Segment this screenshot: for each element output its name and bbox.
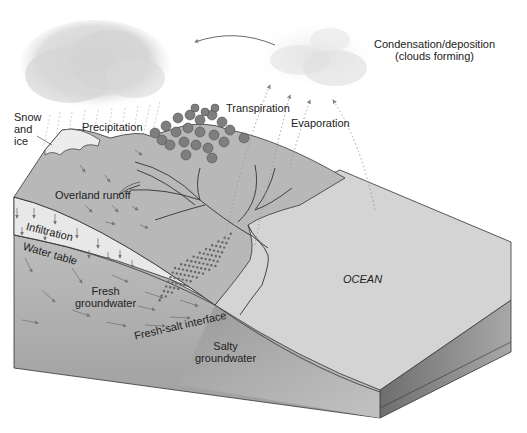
overland-runoff-label: Overland runoff xyxy=(55,189,131,201)
snow-label-line1: Snow xyxy=(14,111,42,123)
transpiration-label: Transpiration xyxy=(226,102,290,114)
evaporation-label: Evaporation xyxy=(291,117,350,129)
condensation-label-line2: (clouds forming) xyxy=(374,50,495,62)
salty-groundwater-line1: Salty xyxy=(195,340,256,352)
rain-cloud xyxy=(20,20,170,110)
snow-ice-label: Snow and ice xyxy=(14,111,42,147)
ocean-label: OCEAN xyxy=(343,273,382,285)
salty-groundwater-label: Salty groundwater xyxy=(195,340,256,364)
snow-label-line3: ice xyxy=(14,135,42,147)
diagram-artwork xyxy=(0,0,527,433)
fresh-groundwater-line2: groundwater xyxy=(75,297,136,309)
water-cycle-diagram: Condensation/deposition (clouds forming)… xyxy=(0,0,527,433)
snow-label-line2: and xyxy=(14,123,42,135)
forming-cloud xyxy=(255,23,375,87)
fresh-groundwater-label: Fresh groundwater xyxy=(75,285,136,309)
precipitation-label: Precipitation xyxy=(82,121,143,133)
condensation-label-line1: Condensation/deposition xyxy=(374,38,495,50)
salty-groundwater-line2: groundwater xyxy=(195,352,256,364)
fresh-groundwater-line1: Fresh xyxy=(75,285,136,297)
condensation-label: Condensation/deposition (clouds forming) xyxy=(374,38,495,62)
